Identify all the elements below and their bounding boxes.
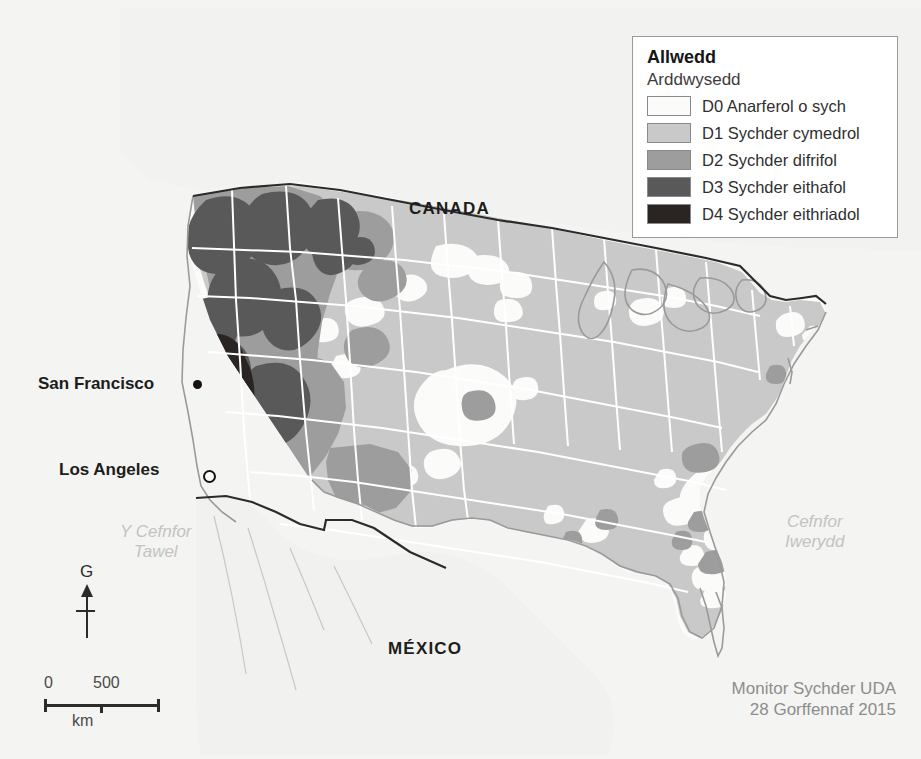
legend-swatch-d0 xyxy=(647,96,691,116)
legend-label-d0: D0 Anarferol o sych xyxy=(702,97,846,116)
legend-item-d4[interactable]: D4 Sychder eithriadol xyxy=(647,204,883,224)
legend-item-d0[interactable]: D0 Anarferol o sych xyxy=(647,96,883,116)
legend-item-d2[interactable]: D2 Sychder difrifol xyxy=(647,150,883,170)
legend-swatch-d3 xyxy=(647,177,691,197)
legend-subtitle: Arddwysedd xyxy=(647,70,883,90)
legend-label-d4: D4 Sychder eithriadol xyxy=(702,205,860,224)
legend-item-d1[interactable]: D1 Sychder cymedrol xyxy=(647,123,883,143)
drought-monitor-map: CANADA MÉXICO San Francisco Los Angeles … xyxy=(0,0,921,759)
city-marker-san-francisco xyxy=(193,380,202,389)
north-arrow-icon xyxy=(80,584,100,640)
scale-bar xyxy=(44,704,160,718)
legend-label-d1: D1 Sychder cymedrol xyxy=(702,124,860,143)
legend-swatch-d1 xyxy=(647,123,691,143)
legend-swatch-d2 xyxy=(647,150,691,170)
legend-label-d3: D3 Sychder eithafol xyxy=(702,178,846,197)
legend-label-d2: D2 Sychder difrifol xyxy=(702,151,837,170)
map-legend: Allwedd Arddwysedd D0 Anarferol o sych D… xyxy=(632,36,898,238)
legend-swatch-d4 xyxy=(647,204,691,224)
legend-item-d3[interactable]: D3 Sychder eithafol xyxy=(647,177,883,197)
legend-title: Allwedd xyxy=(647,48,883,68)
city-marker-los-angeles xyxy=(203,470,216,483)
